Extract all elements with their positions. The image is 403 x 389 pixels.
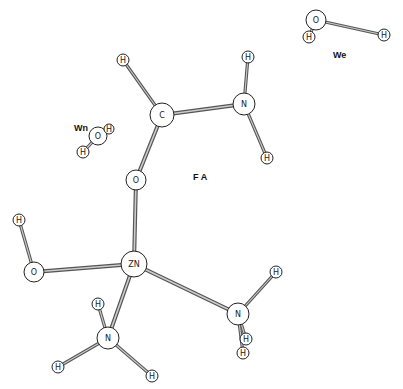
atom-O_OH: O	[24, 262, 44, 282]
atom-label: H	[106, 125, 112, 134]
group-label-We: We	[333, 50, 346, 60]
bond-highlight	[134, 264, 238, 314]
atom-label: H	[240, 349, 246, 358]
atom-Wn_H2: H	[77, 146, 89, 158]
atom-N1_H1: H	[242, 51, 254, 63]
atom-label: H	[80, 148, 86, 157]
atom-label: H	[245, 53, 251, 62]
atom-label: N	[235, 310, 241, 319]
atom-We_H2: H	[378, 29, 390, 41]
atom-N2: N	[97, 327, 119, 349]
atom-label: C	[159, 111, 165, 120]
atom-C_H: H	[117, 54, 129, 66]
bonds-layer	[19, 20, 384, 376]
atom-label: O	[313, 16, 319, 25]
group-label-FA: F A	[193, 172, 208, 182]
atom-label: O	[31, 268, 37, 277]
atom-O_OH_H: H	[13, 214, 25, 226]
group-labels-layer: WeWnF A	[74, 50, 346, 182]
atom-label: H	[120, 56, 126, 65]
atom-N2_H1: H	[92, 298, 104, 310]
atom-N2_H3: H	[146, 370, 158, 382]
atom-label: H	[16, 216, 22, 225]
group-label-Wn: Wn	[74, 123, 88, 133]
atom-We_O: O	[306, 10, 326, 30]
atom-N2_H2: H	[52, 361, 64, 373]
atom-N3_H1: H	[270, 266, 282, 278]
atom-label: H	[381, 31, 387, 40]
atom-Wn_H1: H	[104, 124, 114, 134]
atom-label: N	[241, 100, 247, 109]
molecular-structure-diagram: OHHOHHCHNHHOZNOHNHHHNHHH WeWnF A	[0, 0, 403, 389]
atom-label: O	[95, 132, 101, 141]
atom-label: H	[55, 363, 61, 372]
atom-label: O	[133, 176, 139, 185]
atom-label: H	[264, 154, 270, 163]
atom-N3_H3: H	[237, 347, 249, 359]
atom-label: H	[149, 372, 155, 381]
atom-O_FA: O	[126, 170, 146, 190]
atom-N3: N	[227, 303, 249, 325]
atom-label: H	[243, 335, 249, 344]
atom-label: H	[95, 300, 101, 309]
bond-highlight	[34, 264, 134, 272]
atom-label: H	[273, 268, 279, 277]
atoms-layer: OHHOHHCHNHHOZNOHNHHHNHHH	[13, 10, 390, 382]
atom-label: ZN	[128, 260, 139, 269]
atom-N3_H2: H	[240, 333, 252, 345]
atom-label: H	[306, 33, 312, 42]
atom-label: N	[105, 334, 111, 343]
atom-N1_H2: H	[261, 152, 273, 164]
atom-We_H1: H	[303, 31, 315, 43]
atom-ZN: ZN	[121, 251, 147, 277]
atom-N1: N	[233, 93, 255, 115]
atom-C: C	[150, 103, 174, 127]
